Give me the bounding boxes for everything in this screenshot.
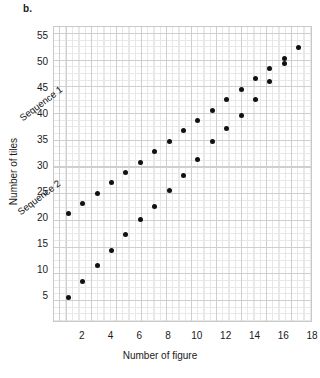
x-tick-label: 16	[273, 331, 293, 341]
x-tick-label: 12	[216, 331, 236, 341]
data-point	[239, 113, 244, 118]
data-point	[267, 79, 272, 84]
data-point	[66, 211, 71, 216]
data-point	[195, 157, 200, 162]
data-point	[138, 160, 143, 165]
x-tick-label: 14	[244, 331, 264, 341]
data-point	[239, 87, 244, 92]
data-point	[109, 248, 114, 253]
data-point	[296, 45, 301, 50]
x-tick-label: 18	[302, 331, 320, 341]
data-point	[167, 139, 172, 144]
data-point	[123, 170, 128, 175]
panel-label: b.	[23, 3, 32, 14]
x-tick-label: 8	[158, 331, 178, 341]
data-point	[95, 263, 100, 268]
data-point	[224, 97, 229, 102]
y-tick-label: 55	[22, 31, 48, 41]
y-tick-label: 50	[22, 57, 48, 67]
data-point	[282, 56, 287, 61]
data-point	[210, 139, 215, 144]
data-point	[181, 128, 186, 133]
data-point	[167, 188, 172, 193]
data-point	[210, 108, 215, 113]
y-tick-label: 15	[22, 239, 48, 249]
data-point	[123, 232, 128, 237]
y-tick-label: 5	[22, 291, 48, 301]
data-point	[253, 76, 258, 81]
data-point	[224, 126, 229, 131]
data-point	[109, 180, 114, 185]
y-tick-label: 35	[22, 135, 48, 145]
data-point	[95, 191, 100, 196]
data-point	[66, 295, 71, 300]
y-axis-title: Number of tiles	[8, 112, 19, 232]
plot-area	[53, 26, 312, 322]
x-tick-label: 10	[187, 331, 207, 341]
data-point	[253, 97, 258, 102]
data-point	[80, 201, 85, 206]
data-point	[282, 61, 287, 66]
data-point	[195, 118, 200, 123]
y-tick-label: 45	[22, 83, 48, 93]
x-tick-label: 6	[129, 331, 149, 341]
data-point	[80, 279, 85, 284]
y-tick-label: 10	[22, 265, 48, 275]
data-point	[138, 217, 143, 222]
x-axis-title: Number of figure	[0, 350, 320, 361]
data-point	[152, 204, 157, 209]
figure-container: b. Number of tiles Number of figure 5101…	[0, 0, 320, 378]
x-tick-label: 4	[101, 331, 121, 341]
data-point	[267, 66, 272, 71]
data-point	[181, 173, 186, 178]
y-tick-label: 20	[22, 213, 48, 223]
data-point	[152, 149, 157, 154]
x-tick-label: 2	[72, 331, 92, 341]
y-tick-label: 30	[22, 161, 48, 171]
